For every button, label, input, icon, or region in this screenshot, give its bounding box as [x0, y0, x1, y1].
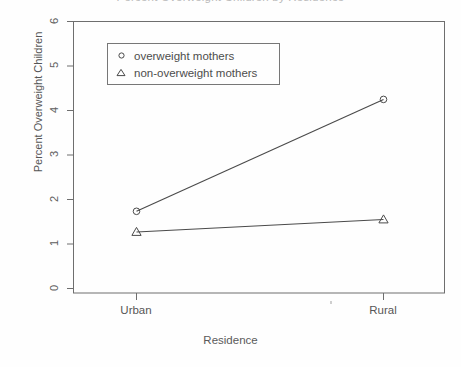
- series-line: [137, 99, 384, 211]
- legend-entry-overweight-mothers: overweight mothers: [108, 47, 279, 64]
- legend-entry-non-overweight-mothers: non-overweight mothers: [108, 64, 279, 81]
- x-tick-label-rural: Rural: [348, 304, 418, 316]
- scan-artifact-speck: [330, 301, 332, 304]
- y-tick-label: 1: [48, 231, 60, 255]
- series-overweight-mothers: [133, 96, 387, 215]
- circle-marker-icon: [380, 96, 387, 103]
- y-tick-label: 6: [48, 9, 60, 33]
- x-axis-ticks: [137, 293, 384, 300]
- y-axis-ticks: [67, 22, 74, 289]
- x-axis-label: Residence: [0, 334, 461, 346]
- legend-label: non-overweight mothers: [134, 67, 257, 79]
- chart-screenshot: Percent Overweight Children by Residence: [0, 0, 461, 367]
- triangle-marker-icon: [108, 68, 134, 77]
- y-tick-label: 0: [48, 276, 60, 300]
- legend: overweight mothers non-overweight mother…: [107, 43, 280, 85]
- y-tick-label: 2: [48, 187, 60, 211]
- triangle-marker-icon: [379, 215, 388, 223]
- y-axis-label: Percent Overweight Children: [32, 2, 44, 202]
- y-tick-label: 4: [48, 98, 60, 122]
- x-tick-label-urban: Urban: [101, 304, 171, 316]
- legend-label: overweight mothers: [134, 50, 234, 62]
- y-tick-label: 3: [48, 142, 60, 166]
- series-non-overweight-mothers: [132, 215, 388, 236]
- y-tick-label: 5: [48, 53, 60, 77]
- series-line: [137, 220, 384, 233]
- circle-marker-icon: [108, 51, 134, 60]
